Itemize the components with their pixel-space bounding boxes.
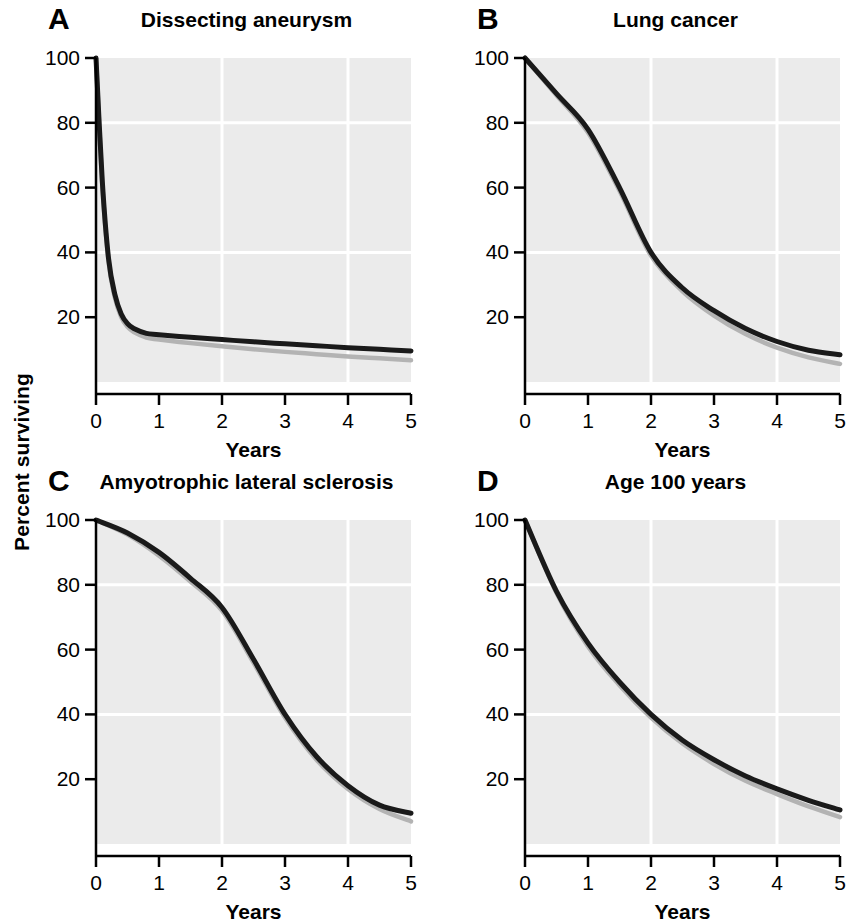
panel-b-plot: 20406080100012345Years bbox=[429, 0, 858, 462]
y-axis-tick-label: 40 bbox=[486, 240, 509, 263]
y-axis-tick-label: 40 bbox=[486, 702, 509, 725]
x-axis-tick-label: 3 bbox=[708, 871, 720, 894]
y-axis-tick-label: 60 bbox=[486, 638, 509, 661]
panel-d: D Age 100 years 20406080100012345Years bbox=[429, 462, 858, 924]
x-axis-tick-label: 4 bbox=[342, 871, 354, 894]
y-axis-tick-label: 20 bbox=[486, 767, 509, 790]
y-axis-tick-label: 80 bbox=[57, 573, 80, 596]
x-axis-tick-label: 5 bbox=[405, 871, 417, 894]
panel-d-plot: 20406080100012345Years bbox=[429, 462, 858, 924]
x-axis-tick-label: 3 bbox=[708, 409, 720, 432]
x-axis-tick-label: 1 bbox=[153, 871, 165, 894]
y-axis-tick-label: 20 bbox=[57, 767, 80, 790]
y-axis-tick-label: 60 bbox=[486, 176, 509, 199]
x-axis-label: Years bbox=[225, 900, 281, 923]
y-axis-tick-label: 100 bbox=[45, 46, 80, 69]
x-axis-tick-label: 5 bbox=[405, 409, 417, 432]
x-axis-tick-label: 2 bbox=[216, 409, 228, 432]
x-axis-tick-label: 5 bbox=[834, 871, 846, 894]
x-axis-tick-label: 2 bbox=[216, 871, 228, 894]
y-axis-tick-label: 100 bbox=[474, 508, 509, 531]
y-axis-tick-label: 20 bbox=[57, 305, 80, 328]
x-axis-tick-label: 1 bbox=[582, 871, 594, 894]
x-axis-tick-label: 1 bbox=[153, 409, 165, 432]
panel-b: B Lung cancer 20406080100012345Years bbox=[429, 0, 858, 462]
x-axis-label: Years bbox=[225, 438, 281, 461]
x-axis-tick-label: 3 bbox=[279, 871, 291, 894]
x-axis-tick-label: 4 bbox=[771, 409, 783, 432]
x-axis-tick-label: 4 bbox=[342, 409, 354, 432]
y-axis-tick-label: 80 bbox=[486, 111, 509, 134]
y-axis-tick-label: 100 bbox=[45, 508, 80, 531]
y-axis-tick-label: 40 bbox=[57, 240, 80, 263]
x-axis-label: Years bbox=[654, 900, 710, 923]
x-axis-tick-label: 4 bbox=[771, 871, 783, 894]
x-axis-tick-label: 0 bbox=[519, 871, 531, 894]
y-axis-tick-label: 60 bbox=[57, 176, 80, 199]
x-axis-tick-label: 5 bbox=[834, 409, 846, 432]
x-axis-label: Years bbox=[654, 438, 710, 461]
x-axis-tick-label: 0 bbox=[90, 409, 102, 432]
x-axis-tick-label: 2 bbox=[645, 409, 657, 432]
x-axis-tick-label: 3 bbox=[279, 409, 291, 432]
panel-a-plot: 20406080100012345Years bbox=[0, 0, 429, 462]
panel-c: C Amyotrophic lateral sclerosis 20406080… bbox=[0, 462, 429, 924]
panel-c-plot: 20406080100012345Years bbox=[0, 462, 429, 924]
x-axis-tick-label: 2 bbox=[645, 871, 657, 894]
y-axis-tick-label: 80 bbox=[57, 111, 80, 134]
x-axis-tick-label: 0 bbox=[519, 409, 531, 432]
y-axis-tick-label: 100 bbox=[474, 46, 509, 69]
survival-figure: Percent surviving A Dissecting aneurysm … bbox=[0, 0, 858, 924]
x-axis-tick-label: 0 bbox=[90, 871, 102, 894]
y-axis-tick-label: 40 bbox=[57, 702, 80, 725]
y-axis-tick-label: 80 bbox=[486, 573, 509, 596]
x-axis-tick-label: 1 bbox=[582, 409, 594, 432]
y-axis-tick-label: 20 bbox=[486, 305, 509, 328]
y-axis-tick-label: 60 bbox=[57, 638, 80, 661]
panel-a: A Dissecting aneurysm 20406080100012345Y… bbox=[0, 0, 429, 462]
